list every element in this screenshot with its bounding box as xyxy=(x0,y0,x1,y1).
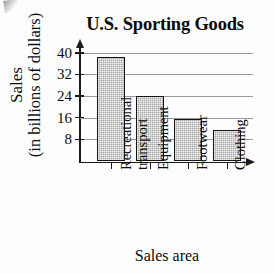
x-axis-label: Sales area xyxy=(79,247,255,265)
y-axis-tick-label: 24 xyxy=(57,88,72,105)
y-axis-tick-label: 32 xyxy=(57,66,72,83)
y-axis-arrow-icon xyxy=(76,39,84,48)
x-axis-tick xyxy=(227,162,228,169)
x-axis-category-label-line: Clothing xyxy=(232,119,249,170)
y-axis-tick xyxy=(75,74,84,75)
y-axis-label-line-1: Sales xyxy=(7,67,26,103)
x-axis-category-label: Equipment xyxy=(155,106,172,170)
gridline xyxy=(80,53,253,54)
x-axis-category-label-line: Equipment xyxy=(155,106,172,170)
x-axis-tick xyxy=(188,162,189,169)
y-axis-tick xyxy=(75,95,84,96)
y-axis-tick xyxy=(75,52,84,53)
y-axis-tick xyxy=(75,117,84,118)
chart-page: U.S. Sporting Goods Sales (in billions o… xyxy=(0,0,274,273)
x-axis-category-label: Footwear xyxy=(194,115,211,170)
y-axis-label-line-2: (in billions of dollars) xyxy=(26,13,45,157)
x-axis-category-label-line: Recreational xyxy=(119,97,135,170)
chart-title: U.S. Sporting Goods xyxy=(62,14,268,35)
y-axis-tick-label: 16 xyxy=(57,109,72,126)
y-axis-tick-label: 8 xyxy=(65,131,73,148)
x-axis-category-label-line: Footwear xyxy=(194,115,211,170)
x-axis-category-label: Recreationaltransport xyxy=(119,97,150,170)
x-axis-category-label: Clothing xyxy=(232,119,249,170)
x-axis-tick xyxy=(111,162,112,169)
x-axis-category-label-line: transport xyxy=(135,118,151,170)
y-axis-line xyxy=(79,46,81,163)
y-axis-tick-label: 40 xyxy=(57,44,72,61)
y-axis-tick xyxy=(75,139,84,140)
y-axis-label: Sales (in billions of dollars) xyxy=(3,0,49,173)
